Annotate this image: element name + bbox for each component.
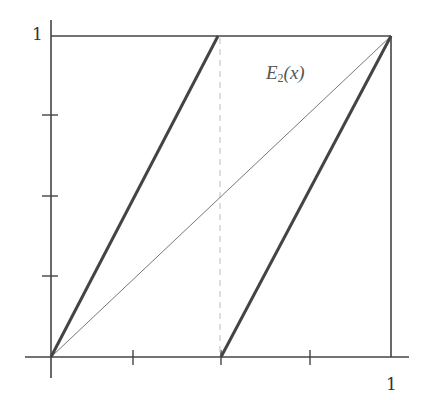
x-axis-max-label: 1 [386,374,397,394]
doubling-map-branch-2 [221,36,391,357]
function-label-argument: (x) [284,62,305,83]
function-label: E2(x) [266,62,305,86]
function-label-name: E [266,62,278,83]
y-axis-ticks [42,115,58,276]
doubling-map-branch-1 [51,36,218,357]
y-axis-max-label: 1 [32,24,43,44]
identity-line [51,36,391,357]
doubling-map-diagram [0,0,424,400]
